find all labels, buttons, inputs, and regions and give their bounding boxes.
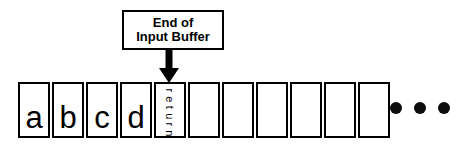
ellipsis-dot bbox=[390, 102, 402, 114]
buffer-cell[interactable] bbox=[222, 82, 254, 138]
buffer-cell-label-vertical: return bbox=[156, 86, 184, 136]
buffer-cell[interactable]: b bbox=[52, 82, 84, 138]
vertical-char: r bbox=[166, 88, 175, 92]
annotation-line-1: End of bbox=[153, 16, 193, 30]
buffer-cell-row: a b c d return bbox=[18, 82, 390, 138]
ellipsis-dot bbox=[414, 102, 426, 114]
annotation-line-2: Input Buffer bbox=[136, 30, 210, 44]
buffer-cell[interactable] bbox=[188, 82, 220, 138]
buffer-cell-label: d bbox=[122, 101, 150, 135]
buffer-cell[interactable] bbox=[324, 82, 356, 138]
buffer-cell-return[interactable]: return bbox=[154, 82, 186, 138]
buffer-cell[interactable] bbox=[358, 82, 390, 138]
buffer-cell-label: a bbox=[20, 101, 48, 135]
annotation-callout: End of Input Buffer bbox=[122, 10, 224, 50]
buffer-cell[interactable]: d bbox=[120, 82, 152, 138]
vertical-char: e bbox=[166, 96, 175, 102]
vertical-char: t bbox=[166, 106, 175, 109]
arrow-down-icon bbox=[157, 50, 181, 83]
vertical-char: u bbox=[166, 113, 175, 119]
vertical-char: n bbox=[166, 130, 175, 136]
buffer-cell[interactable] bbox=[256, 82, 288, 138]
vertical-char: r bbox=[166, 123, 175, 127]
input-buffer-diagram: End of Input Buffer a b c d return bbox=[0, 0, 465, 150]
buffer-cell[interactable]: c bbox=[86, 82, 118, 138]
buffer-cell-label: b bbox=[54, 101, 82, 135]
ellipsis-dot bbox=[438, 102, 450, 114]
buffer-cell[interactable]: a bbox=[18, 82, 50, 138]
buffer-cell-label: c bbox=[88, 101, 116, 135]
buffer-cell[interactable] bbox=[290, 82, 322, 138]
ellipsis-dots-icon bbox=[390, 102, 450, 114]
